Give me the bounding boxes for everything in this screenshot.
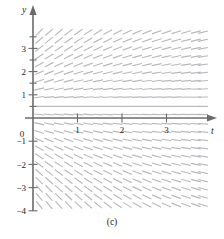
slope-mark (94, 30, 103, 35)
slope-mark (171, 147, 181, 149)
slope-mark (93, 139, 103, 142)
slope-mark (171, 155, 181, 157)
slope-mark (132, 47, 142, 50)
slope-mark (74, 146, 83, 150)
slope-mark (74, 154, 83, 158)
slope-mark (84, 186, 92, 192)
slope-mark (171, 139, 181, 140)
slope-mark (34, 130, 43, 133)
slope-mark (162, 179, 172, 182)
slope-mark (142, 55, 152, 58)
y-axis-label: y (21, 5, 27, 15)
t-axis-label: t (211, 126, 214, 136)
slope-mark (93, 46, 102, 50)
slope-mark (84, 170, 93, 175)
slope-mark (103, 46, 112, 50)
slope-mark (54, 71, 63, 75)
slope-mark (83, 80, 93, 82)
slope-mark (103, 38, 112, 42)
slope-mark (142, 195, 151, 199)
slope-mark (132, 89, 142, 90)
slope-mark (132, 80, 142, 81)
slope-mark (83, 97, 93, 98)
slope-mark (84, 194, 92, 200)
slope-mark (36, 29, 43, 36)
slope-mark (152, 55, 162, 57)
slope-mark (84, 202, 92, 209)
slope-mark (152, 163, 162, 166)
direction-field-figure: 123321−1−2−3−4ty0 (c) (0, 0, 224, 239)
slope-mark (181, 171, 191, 173)
slope-mark (113, 178, 122, 182)
slope-mark (64, 154, 73, 159)
slope-mark (45, 54, 54, 59)
slope-mark (64, 131, 74, 134)
slope-mark (64, 46, 73, 51)
slope-mark (44, 123, 54, 125)
slope-mark (44, 71, 53, 75)
slope-mark (93, 88, 103, 89)
slope-mark (181, 155, 191, 157)
slope-mark (162, 55, 172, 57)
slope-mark (181, 39, 191, 41)
slope-mark (171, 123, 181, 124)
slope-mark (103, 170, 112, 174)
slope-mark (152, 131, 162, 132)
slope-mark (181, 147, 191, 149)
slope-mark (73, 97, 83, 98)
slope-mark (94, 178, 103, 183)
slope-mark (83, 63, 92, 66)
slope-mark (171, 163, 181, 165)
slope-mark (132, 163, 142, 166)
slope-mark (93, 80, 103, 82)
slope-mark (152, 39, 162, 42)
figure-caption: (c) (0, 217, 224, 227)
slope-mark (83, 88, 93, 90)
slope-mark (45, 185, 52, 192)
slope-mark (152, 203, 161, 207)
slope-mark (142, 203, 151, 208)
slope-mark (181, 89, 191, 90)
t-axis-tick-label: 3 (164, 125, 169, 135)
slope-mark (162, 72, 172, 73)
slope-mark (172, 31, 182, 34)
slope-mark (113, 155, 122, 158)
slope-mark (122, 72, 132, 74)
slope-mark (172, 187, 181, 190)
slope-mark (171, 80, 181, 81)
slope-mark (35, 62, 44, 67)
slope-mark (123, 147, 133, 150)
slope-mark (46, 193, 53, 200)
slope-mark (171, 171, 181, 174)
slope-mark (103, 131, 113, 133)
slope-mark (65, 178, 73, 184)
slope-mark (103, 123, 113, 124)
slope-mark (103, 63, 113, 66)
slope-mark (93, 162, 102, 166)
slope-mark (54, 146, 63, 150)
slope-mark (44, 138, 53, 142)
slope-mark (74, 170, 82, 175)
slope-mark (132, 123, 142, 124)
slope-mark (64, 37, 72, 43)
slope-mark (123, 171, 132, 175)
slope-mark (132, 39, 141, 43)
slope-mark (142, 131, 152, 132)
slope-mark (123, 163, 132, 166)
slope-mark (75, 202, 82, 209)
slope-mark (133, 203, 142, 208)
slope-mark (45, 162, 53, 168)
slope-mark (74, 80, 84, 82)
slope-mark (74, 162, 83, 167)
slope-mark (152, 179, 161, 182)
slope-mark (45, 146, 54, 151)
slope-mark (74, 54, 83, 58)
slope-mark (152, 64, 162, 66)
slope-mark (123, 179, 132, 183)
slope-mark (132, 55, 142, 58)
slope-mark (103, 72, 113, 74)
slope-mark (181, 56, 191, 58)
slope-mark (45, 46, 53, 52)
slope-mark (94, 202, 102, 208)
slope-mark (142, 72, 152, 74)
